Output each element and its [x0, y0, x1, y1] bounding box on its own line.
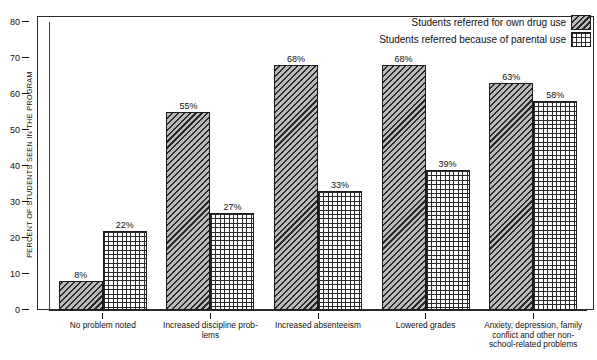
y-tick-label: 20: [0, 233, 20, 243]
bar[interactable]: 27%: [210, 213, 254, 310]
x-tick-mark: [318, 313, 319, 319]
y-tick-label: 10: [0, 269, 20, 279]
legend-item-label: Students referred for own drug use: [411, 17, 566, 28]
y-tick-mark: [22, 21, 29, 22]
y-tick-mark: [22, 273, 29, 274]
legend-swatch-grid-crosshatch: [571, 32, 591, 47]
bar-value-label: 68%: [287, 54, 305, 64]
y-tick-50: 50: [0, 125, 29, 135]
bar-value-label: 55%: [179, 101, 197, 111]
bar-value-label: 63%: [502, 72, 520, 82]
bar-value-label: 33%: [331, 180, 349, 190]
bar-value-label: 68%: [395, 54, 413, 64]
x-category-label: Lowered grades: [367, 313, 485, 331]
y-tick-0: 0: [0, 305, 29, 315]
chart-legend: Students referred for own drug useStuden…: [379, 14, 591, 48]
x-category-label: Increased absenteeism: [259, 313, 377, 331]
bar-group: 8%22%: [59, 22, 147, 310]
y-tick-40: 40: [0, 161, 29, 171]
bar[interactable]: 68%: [274, 65, 318, 310]
bar[interactable]: 8%: [59, 281, 103, 310]
bar-value-label: 58%: [546, 90, 564, 100]
y-tick-mark: [22, 201, 29, 202]
x-category-label: Increased discipline prob-lems: [151, 313, 269, 340]
bar[interactable]: 55%: [166, 112, 210, 310]
y-tick-30: 30: [0, 197, 29, 207]
bar-value-label: 8%: [74, 270, 87, 280]
y-tick-label: 40: [0, 161, 20, 171]
x-category-label-line: Increased absenteeism: [259, 321, 377, 331]
y-tick-label: 50: [0, 125, 20, 135]
x-category-label-line: Lowered grades: [367, 321, 485, 331]
bar-group: 63%58%: [489, 22, 577, 310]
x-axis-baseline: [49, 310, 587, 311]
bar[interactable]: 22%: [103, 231, 147, 310]
y-tick-label: 0: [0, 305, 20, 315]
bar[interactable]: 68%: [382, 65, 426, 310]
y-tick-mark: [22, 237, 29, 238]
legend-item[interactable]: Students referred because of parental us…: [379, 31, 591, 48]
y-tick-label: 80: [0, 17, 20, 27]
legend-swatch-diagonal-hatch: [571, 15, 591, 30]
y-tick-mark: [22, 129, 29, 130]
bar[interactable]: 63%: [489, 83, 533, 310]
y-tick-10: 10: [0, 269, 29, 279]
bar[interactable]: 58%: [533, 101, 577, 310]
y-tick-80: 80: [0, 17, 29, 27]
bar-value-label: 22%: [116, 220, 134, 230]
y-tick-label: 70: [0, 53, 20, 63]
x-category-label-line: lems: [151, 331, 269, 341]
bar-group: 68%39%: [382, 22, 470, 310]
x-category-label: Anxiety, depression, familyconflict and …: [474, 313, 592, 350]
x-tick-mark: [102, 313, 103, 319]
x-category-label: No problem noted: [44, 313, 162, 331]
y-tick-20: 20: [0, 233, 29, 243]
bar[interactable]: 33%: [318, 191, 362, 310]
y-tick-70: 70: [0, 53, 29, 63]
bar-group: 68%33%: [274, 22, 362, 310]
y-tick-mark: [22, 309, 29, 310]
bar-value-label: 39%: [439, 159, 457, 169]
y-tick-mark: [22, 57, 29, 58]
y-tick-60: 60: [0, 89, 29, 99]
y-tick-label: 30: [0, 197, 20, 207]
x-tick-mark: [210, 313, 211, 319]
x-tick-mark: [425, 313, 426, 319]
y-tick-mark: [22, 165, 29, 166]
y-tick-label: 60: [0, 89, 20, 99]
bar[interactable]: 39%: [426, 170, 470, 310]
legend-item-label: Students referred because of parental us…: [379, 34, 566, 45]
y-tick-mark: [22, 93, 29, 94]
x-tick-mark: [533, 313, 534, 319]
bar-value-label: 27%: [223, 202, 241, 212]
x-category-label-line: school-related problems: [474, 340, 592, 350]
legend-item[interactable]: Students referred for own drug use: [379, 14, 591, 31]
bar-group: 55%27%: [166, 22, 254, 310]
chart-plot-area: 8%22%55%27%68%33%68%39%63%58%: [49, 22, 587, 310]
x-category-label-line: No problem noted: [44, 321, 162, 331]
